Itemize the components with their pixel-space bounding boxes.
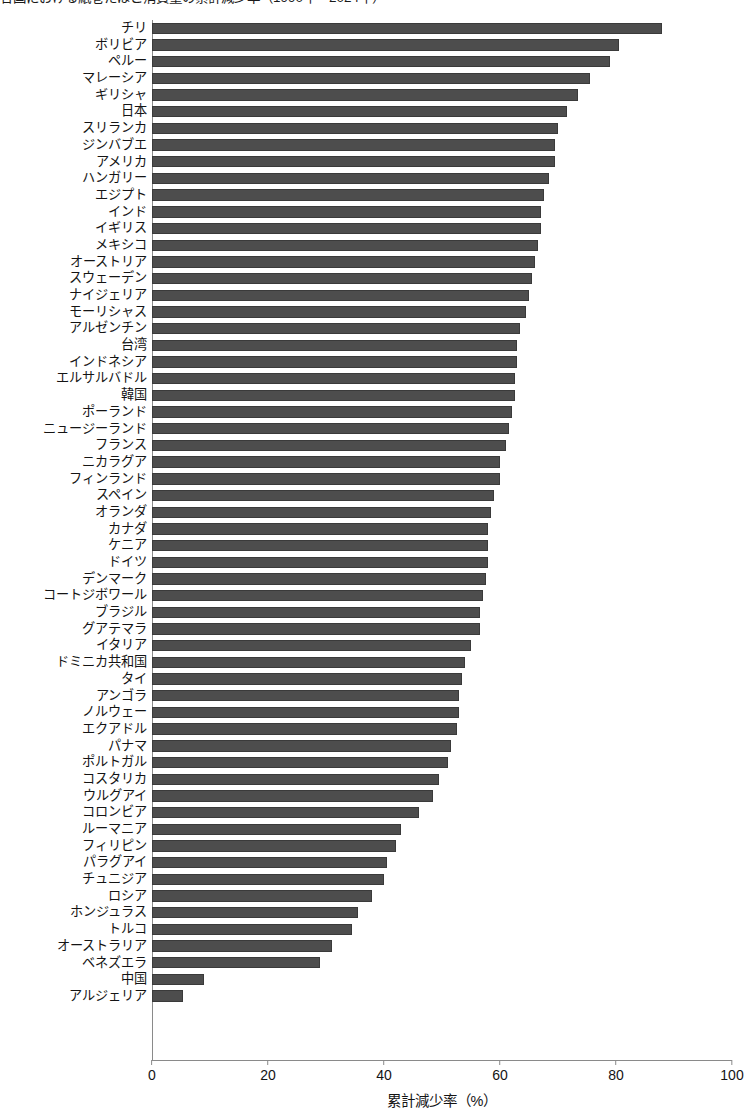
bar [152, 139, 555, 150]
bar-row: コートジボワール [152, 587, 732, 604]
category-label: 台湾 [121, 337, 147, 354]
category-label: ジンバブエ [82, 137, 147, 154]
x-tick-label: 0 [148, 1067, 156, 1083]
category-label: ニュージーランド [43, 421, 147, 438]
bar [152, 106, 567, 117]
bar [152, 507, 491, 518]
category-label: メキシコ [95, 237, 147, 254]
bar-row: 台湾 [152, 337, 732, 354]
category-label: ドミニカ共和国 [56, 654, 147, 671]
category-label: パラグアイ [83, 854, 147, 871]
bar-row: ポルトガル [152, 754, 732, 771]
category-label: チリ [121, 20, 147, 37]
bar [152, 640, 471, 651]
bar [152, 290, 529, 301]
bar [152, 757, 448, 768]
bar [152, 223, 541, 234]
chart-title: 各国における紙巻たばこ消費量の累計減少率（1990年〜2024年） [0, 0, 430, 7]
bar-row: アルジェリア [152, 988, 732, 1005]
bar [152, 540, 488, 551]
category-label: モーリシャス [69, 304, 147, 321]
bar [152, 607, 480, 618]
bar [152, 23, 662, 34]
category-label: オーストラリア [57, 938, 147, 955]
category-label: チュニジア [82, 871, 147, 888]
bar [152, 924, 352, 935]
x-tick-mark [499, 1060, 500, 1065]
bar-row: ギリシャ [152, 87, 732, 104]
bar-row: 韓国 [152, 387, 732, 404]
x-tick-label: 100 [720, 1067, 743, 1083]
bar [152, 206, 541, 217]
bar-row: ブラジル [152, 604, 732, 621]
category-label: ハンガリー [82, 170, 147, 187]
category-label: スペイン [96, 487, 147, 504]
bar-row: インドネシア [152, 354, 732, 371]
category-label: トルコ [108, 921, 147, 938]
x-tick-label: 20 [260, 1067, 276, 1083]
category-label: カナダ [108, 521, 147, 538]
bar-row: ウルグアイ [152, 788, 732, 805]
x-tick: 40 [376, 1060, 392, 1083]
bar-row: ロシア [152, 888, 732, 905]
x-tick: 100 [720, 1060, 743, 1083]
bar-row: ホンジュラス [152, 904, 732, 921]
bar [152, 273, 532, 284]
bar [152, 824, 401, 835]
bar [152, 156, 555, 167]
bar-row: チリ [152, 20, 732, 37]
bar-row: コロンビア [152, 804, 732, 821]
x-tick: 60 [492, 1060, 508, 1083]
x-tick-mark [267, 1060, 268, 1065]
bar-row: ボリビア [152, 37, 732, 54]
bar [152, 657, 465, 668]
bar-row: ドイツ [152, 554, 732, 571]
category-label: ポーランド [82, 404, 147, 421]
bar [152, 456, 500, 467]
bar-row: ポーランド [152, 404, 732, 421]
bar-row: デンマーク [152, 571, 732, 588]
bar [152, 490, 494, 501]
bar [152, 623, 480, 634]
bar [152, 557, 488, 568]
category-label: フィンランド [69, 471, 147, 488]
bar-row: インド [152, 204, 732, 221]
bar-row: スペイン [152, 487, 732, 504]
category-label: アンゴラ [96, 688, 147, 705]
category-label: 日本 [121, 103, 147, 120]
bar-row: メキシコ [152, 237, 732, 254]
category-label: イギリス [95, 220, 147, 237]
category-label: ケニア [108, 537, 147, 554]
bar-row: ケニア [152, 537, 732, 554]
x-tick-label: 80 [608, 1067, 624, 1083]
category-label: パナマ [108, 738, 147, 755]
category-label: ドイツ [108, 554, 147, 571]
bar [152, 523, 488, 534]
x-tick-mark [151, 1060, 152, 1065]
bar [152, 173, 549, 184]
bar-row: アンゴラ [152, 688, 732, 705]
category-label: フィリピン [82, 838, 147, 855]
bar [152, 957, 320, 968]
bar [152, 990, 183, 1001]
bar [152, 673, 462, 684]
bar [152, 890, 372, 901]
bar-row: イギリス [152, 220, 732, 237]
bar [152, 573, 486, 584]
category-label: エクアドル [82, 721, 147, 738]
category-label: ノルウェー [82, 704, 147, 721]
bar [152, 406, 512, 417]
bar-row: ニカラグア [152, 454, 732, 471]
x-tick-mark [731, 1060, 732, 1065]
bar-row: フィリピン [152, 838, 732, 855]
x-tick: 20 [260, 1060, 276, 1083]
bar [152, 857, 387, 868]
bar [152, 39, 619, 50]
bar-row: マレーシア [152, 70, 732, 87]
category-label: アルジェリア [69, 988, 147, 1005]
category-label: エジプト [95, 187, 147, 204]
bar-row: オランダ [152, 504, 732, 521]
x-tick-mark [383, 1060, 384, 1065]
category-label: フランス [95, 437, 147, 454]
bar-row: パラグアイ [152, 854, 732, 871]
